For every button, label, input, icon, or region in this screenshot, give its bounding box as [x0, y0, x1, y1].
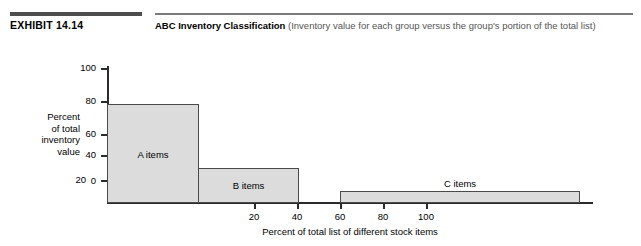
- y-axis-title-line-4: value: [18, 146, 80, 158]
- x-tick-label-80: 80: [366, 212, 400, 222]
- x-tick-label-60: 60: [323, 212, 357, 222]
- bar-label-b-items: B items: [203, 180, 294, 191]
- bar-chart: 100 80 60 40 20 0 Percent of total inven…: [0, 56, 641, 246]
- x-tick-label-40: 40: [280, 212, 314, 222]
- bar-label-c-items: C items: [400, 178, 520, 189]
- title-rule: [155, 13, 633, 15]
- bar-label-a-items: A items: [112, 149, 194, 160]
- x-tick-label-100: 100: [409, 212, 443, 222]
- x-tick-label-20: 20: [237, 212, 271, 222]
- y-axis-title: Percent of total inventory value: [18, 111, 80, 157]
- x-tick-80: [383, 203, 385, 209]
- y-tick-label-80: 80: [66, 96, 96, 106]
- figure-title-subtitle: (Inventory value for each group versus t…: [288, 20, 596, 31]
- exhibit-figure: EXHIBIT 14.14 ABC Inventory Classificati…: [0, 0, 641, 246]
- x-tick-40: [297, 203, 299, 209]
- y-axis-title-line-3: inventory: [18, 134, 80, 146]
- origin-label: 0: [78, 175, 96, 186]
- figure-title-main: ABC Inventory Classification: [155, 20, 285, 31]
- figure-title: ABC Inventory Classification (Inventory …: [155, 19, 635, 32]
- exhibit-label: EXHIBIT 14.14: [10, 19, 83, 31]
- x-tick-60: [340, 203, 342, 209]
- x-tick-20: [254, 203, 256, 209]
- x-axis-title: Percent of total list of different stock…: [107, 226, 593, 237]
- y-axis-title-line-1: Percent: [18, 111, 80, 123]
- x-tick-100: [426, 203, 428, 209]
- y-tick-80: [101, 101, 107, 103]
- y-tick-label-100: 100: [66, 63, 96, 73]
- y-tick-100: [101, 68, 107, 70]
- y-axis-title-line-2: of total: [18, 123, 80, 135]
- exhibit-rule: [10, 12, 142, 16]
- bar-c-items: [340, 191, 580, 203]
